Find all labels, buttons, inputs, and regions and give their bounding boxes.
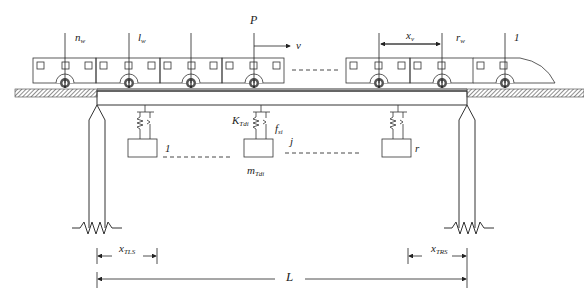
xtrs-sub: TRS bbox=[436, 248, 448, 256]
ground-right bbox=[467, 89, 584, 97]
vehicle-spacing-label: xv bbox=[406, 30, 414, 43]
bridge-deck bbox=[97, 89, 467, 105]
wheel-r-label: rw bbox=[456, 32, 465, 45]
wheel-l-label: lw bbox=[138, 32, 146, 45]
tmd-r-label: r bbox=[415, 143, 419, 154]
tmd-mass-label: mTdi bbox=[247, 165, 264, 178]
xtls-sub: TLS bbox=[124, 248, 135, 256]
tmd-stiffness-label: KTdi bbox=[232, 115, 249, 128]
pier-right bbox=[444, 105, 494, 234]
dimension-lines bbox=[97, 248, 467, 288]
velocity-label: v bbox=[296, 40, 301, 51]
m-main: m bbox=[247, 164, 255, 176]
tmd-dashes bbox=[163, 153, 360, 157]
ground-left bbox=[15, 89, 97, 97]
pier-left bbox=[72, 105, 122, 234]
m-sub: Tdi bbox=[255, 170, 264, 178]
wheel-l-sub: w bbox=[141, 37, 146, 45]
f-sub: si bbox=[278, 128, 283, 136]
wheel-n-sub: w bbox=[81, 37, 86, 45]
span-label: L bbox=[286, 270, 293, 283]
tmd-j-label: j bbox=[290, 136, 293, 147]
wheel-n-label: nw bbox=[75, 32, 85, 45]
wheel-r-sub: w bbox=[460, 37, 465, 45]
wheels bbox=[56, 74, 514, 88]
tmd-first-label: 1 bbox=[165, 143, 171, 154]
train-bridge-diagram bbox=[0, 0, 584, 302]
left-offset-label: xTLS bbox=[119, 243, 135, 256]
load-label: P bbox=[250, 14, 257, 26]
right-offset-label: xTRS bbox=[431, 243, 448, 256]
first-wheel-label: 1 bbox=[514, 32, 520, 43]
tmd-damping-label: fsi bbox=[275, 123, 283, 136]
xv-sub: v bbox=[411, 35, 414, 43]
k-sub: Tdi bbox=[239, 120, 248, 128]
